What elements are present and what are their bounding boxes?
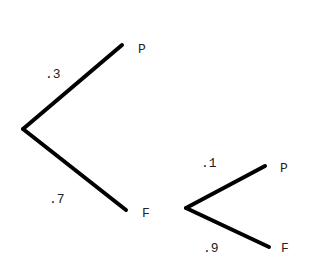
outcome-label-root-lower: F xyxy=(142,206,150,221)
outcome-label-root-upper: P xyxy=(138,42,146,57)
edge-root-to-p xyxy=(23,45,122,129)
probability-label-root-upper: .3 xyxy=(45,67,61,82)
outcome-label-f-upper: P xyxy=(280,161,288,176)
probability-tree-diagram: .3 P .7 F .1 P .9 F xyxy=(0,0,315,276)
edge-f-to-f xyxy=(186,208,269,247)
probability-label-f-upper: .1 xyxy=(201,156,217,171)
probability-label-f-lower: .9 xyxy=(203,241,219,256)
probability-label-root-lower: .7 xyxy=(49,192,65,207)
edge-f-to-p xyxy=(186,166,265,208)
edge-root-to-f xyxy=(23,129,126,210)
outcome-label-f-lower: F xyxy=(281,241,289,256)
